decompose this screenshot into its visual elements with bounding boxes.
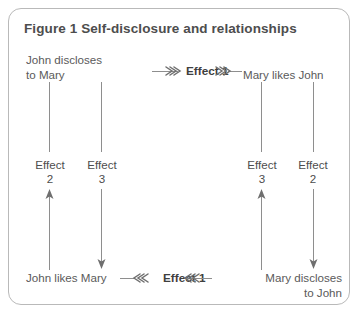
figure-title: Figure 1 Self-disclosure and relationshi… [24, 21, 297, 36]
connector-line-col1-upper [49, 82, 50, 152]
label-effect2-left: Effect 2 [22, 158, 78, 186]
connector-line-top-left [152, 71, 178, 72]
node-john-discloses-to-mary: John discloses to Mary [26, 52, 102, 82]
figure-container: Figure 1 Self-disclosure and relationshi… [0, 0, 364, 319]
connector-line-col3-upper [261, 82, 262, 152]
label-effect1-top: Effect 1 [186, 64, 229, 78]
node-mary-likes-john: Mary likes John [243, 67, 324, 82]
connector-line-bottom-right [185, 278, 212, 279]
label-effect3-right: Effect 3 [234, 158, 290, 186]
node-john-likes-mary: John likes Mary [26, 270, 107, 285]
label-effect2-right: Effect 2 [285, 158, 341, 186]
connector-line-top-right [228, 71, 242, 72]
connector-line-col4-upper [313, 82, 314, 152]
connector-line-col2-upper [101, 82, 102, 152]
node-mary-discloses-to-john: Mary discloses to John [265, 270, 342, 300]
connector-line-bottom-left [120, 278, 134, 279]
label-effect3-left: Effect 3 [74, 158, 130, 186]
